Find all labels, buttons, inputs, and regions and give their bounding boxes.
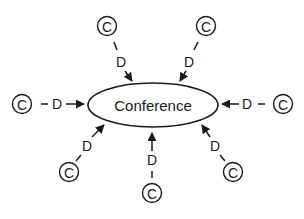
node-letter: C <box>17 97 27 113</box>
edge-label: D <box>210 138 220 154</box>
node-letter: C <box>278 97 288 113</box>
spoke-bottom-right: CD <box>202 125 243 182</box>
edge-label: D <box>82 138 92 154</box>
edge-label: D <box>52 96 62 112</box>
connector-line <box>114 42 117 50</box>
node-letter: C <box>228 165 238 181</box>
edge-label: D <box>184 54 194 70</box>
arrow-icon <box>125 71 132 81</box>
spoke-top-left: CD <box>98 17 133 82</box>
spoke-bottom-left: CD <box>60 125 105 182</box>
arrow-icon <box>92 125 104 137</box>
node-letter: C <box>147 186 157 202</box>
arrow-icon <box>180 71 186 81</box>
connector-line <box>76 155 81 161</box>
edge-label: D <box>147 152 157 168</box>
connector-line <box>194 42 198 50</box>
edge-label: D <box>116 54 126 70</box>
spoke-top-right: CD <box>180 17 216 82</box>
node-letter: C <box>201 19 211 35</box>
spoke-right: CD <box>222 95 293 114</box>
spoke-left: CD <box>13 95 85 114</box>
hub-label: Conference <box>114 97 192 114</box>
spoke-bottom: CD <box>143 133 162 203</box>
connector-line <box>220 155 225 161</box>
node-letter: C <box>102 19 112 35</box>
conference-diagram: Conference CDCDCDCDCDCDCD <box>0 0 304 219</box>
node-letter: C <box>64 165 74 181</box>
arrow-icon <box>202 125 210 137</box>
conference-hub: Conference <box>88 83 218 127</box>
edge-label: D <box>242 96 252 112</box>
